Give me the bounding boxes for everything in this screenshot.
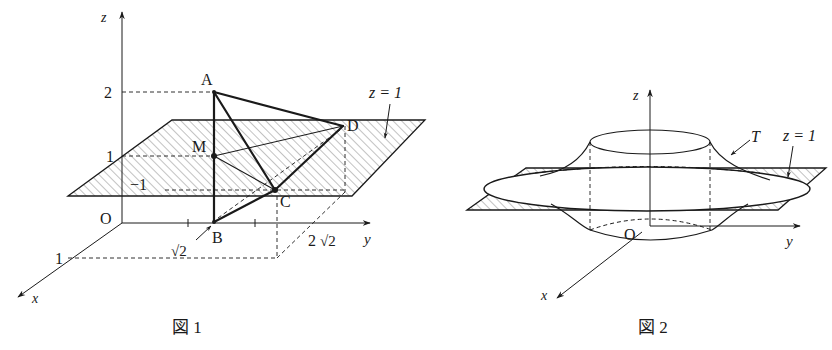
- plane-z1-label: z = 1: [368, 84, 402, 101]
- solid-T-label: T: [751, 128, 761, 145]
- y-axis-label-fig2: y: [784, 233, 793, 249]
- diagram-canvas: z y x O 2 1 1 −1 √2 2 √2 A B C D M z = 1…: [0, 0, 832, 350]
- y-axis-label: y: [362, 231, 371, 247]
- x-axis-label-fig2: x: [540, 288, 548, 303]
- figure-1: z y x O 2 1 1 −1 √2 2 √2 A B C D M z = 1…: [18, 10, 425, 337]
- figure-2: z y x O T z = 1 図 2: [467, 88, 826, 337]
- label-point-M: M: [192, 138, 206, 155]
- label-point-B: B: [212, 229, 223, 246]
- tick-x1: 1: [55, 250, 63, 267]
- origin-label-fig2: O: [624, 226, 636, 243]
- z-axis-label-fig2: z: [632, 88, 639, 103]
- point-C-dot: [272, 187, 278, 193]
- origin-label: O: [100, 210, 112, 227]
- figure-2-caption: 図 2: [638, 318, 668, 337]
- figure-1-caption: 図 1: [172, 318, 202, 337]
- bottom-ellipse-back: [590, 219, 712, 230]
- tick-y-2sqrt2-root: √2: [320, 233, 336, 249]
- tick-z1: 1: [106, 148, 114, 165]
- label-point-A: A: [201, 71, 213, 88]
- sqrt2-pointer-arrow: [196, 226, 211, 240]
- tick-y-sqrt2: √2: [171, 243, 187, 259]
- label-point-C: C: [280, 193, 291, 210]
- tick-xneg1: −1: [130, 176, 147, 193]
- solid-T-pointer-arrow: [731, 140, 750, 155]
- label-point-D: D: [347, 117, 359, 134]
- point-B-dot: [212, 220, 216, 224]
- x-axis-label: x: [31, 291, 39, 306]
- point-M-dot: [211, 153, 217, 159]
- plane-z1-label-fig2: z = 1: [782, 127, 816, 144]
- tick-y-2sqrt2-coef: 2: [308, 232, 316, 249]
- x-axis: [18, 223, 122, 297]
- tick-z2: 2: [104, 84, 112, 101]
- point-A-dot: [212, 90, 216, 94]
- z-axis-label: z: [100, 10, 107, 25]
- cross-section-ellipse: [484, 167, 810, 211]
